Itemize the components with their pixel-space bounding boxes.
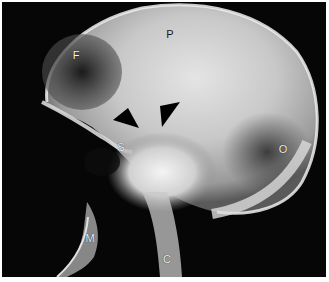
label-parietal: P: [166, 29, 173, 40]
label-sella: S: [117, 142, 124, 153]
radiograph-frame: F P S O M C: [2, 2, 326, 277]
label-occipital: O: [279, 144, 288, 155]
label-frontal: F: [73, 50, 80, 61]
skull-xray-image: [2, 2, 326, 277]
label-cervical: C: [163, 254, 171, 265]
label-mandible: M: [85, 233, 94, 244]
